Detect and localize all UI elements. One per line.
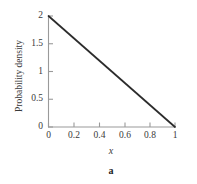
plot-area <box>0 0 197 184</box>
x-tick-label-2: 0.4 <box>94 131 106 141</box>
y-tick-marks <box>49 16 54 127</box>
x-tick-label-5: 1 <box>173 131 178 141</box>
figure-panel-a: 0 0.5 1 1.5 2 0 0.2 0.4 0.6 0.8 1 Probab… <box>0 0 197 184</box>
x-tick-marks <box>49 123 176 128</box>
x-tick-label-4: 0.8 <box>144 131 156 141</box>
x-tick-label-1: 0.2 <box>68 131 80 141</box>
y-axis-label: Probability density <box>14 16 24 136</box>
x-axis-label: x <box>109 145 113 156</box>
x-tick-label-3: 0.6 <box>119 131 131 141</box>
data-line-probability-density <box>49 16 176 127</box>
x-tick-label-0: 0 <box>46 131 51 141</box>
panel-caption: a <box>109 165 114 176</box>
